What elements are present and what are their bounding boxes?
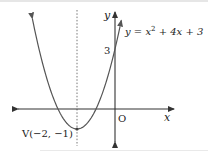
origin-label: O (118, 113, 126, 124)
equation-suffix: + 4x + 3 (156, 26, 204, 37)
parabola-graph: y x O 3 V(−2, −1) y = x2 + 4x + 3 (0, 0, 208, 154)
y-axis-label: y (103, 9, 111, 22)
equation-prefix: y = x (124, 26, 151, 37)
x-axis-label: x (164, 111, 171, 124)
y-intercept-label: 3 (104, 45, 110, 56)
equation-label: y = x2 + 4x + 3 (124, 25, 203, 37)
vertex-point (75, 127, 78, 130)
vertex-label: V(−2, −1) (21, 128, 73, 139)
